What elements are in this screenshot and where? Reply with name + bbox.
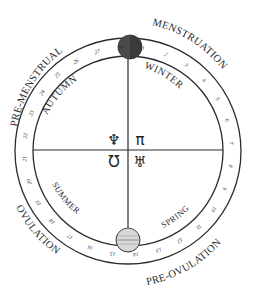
day-number-8: 8: [228, 164, 234, 168]
uranus-like-symbol-icon: ♅: [133, 153, 146, 171]
pi-like-symbol-icon: π: [135, 131, 144, 149]
day-number-18: 18: [48, 218, 56, 226]
day-number-27: 27: [94, 48, 101, 55]
omega-like-symbol-icon: Ʊ: [108, 153, 119, 171]
cycle-wheel-svg: 1234567891011121314151617181920212223242…: [0, 0, 264, 294]
season-label-winter: WINTER: [143, 59, 186, 90]
phase-label-ovulation: OVULATION: [14, 203, 62, 257]
day-number-15: 15: [109, 250, 116, 257]
day-number-5: 5: [215, 96, 222, 102]
day-number-6: 6: [224, 118, 231, 123]
day-number-4: 4: [201, 77, 207, 83]
day-number-16: 16: [86, 244, 94, 252]
day-number-22: 22: [22, 132, 29, 139]
day-number-21: 21: [21, 156, 27, 162]
cycle-wheel-diagram: 1234567891011121314151617181920212223242…: [0, 0, 264, 294]
day-number-20: 20: [25, 178, 32, 185]
day-number-25: 25: [53, 71, 61, 79]
day-number-2: 2: [163, 51, 168, 58]
phase-label-pre-ovulation: PRE-OVULATION: [145, 236, 223, 287]
day-number-23: 23: [27, 109, 35, 117]
day-number-11: 11: [195, 223, 203, 231]
day-number-13: 13: [155, 247, 162, 254]
day-number-14: 14: [133, 251, 139, 257]
season-label-autumn: AUTUMN: [39, 73, 79, 116]
day-number-9: 9: [222, 186, 229, 191]
day-number-24: 24: [38, 88, 46, 96]
day-number-7: 7: [229, 141, 235, 144]
day-number-19: 19: [34, 199, 42, 207]
season-label-summer: SUMMER: [50, 180, 82, 216]
neptune-like-symbol-icon: ♆: [107, 131, 120, 149]
day-number-10: 10: [210, 205, 218, 213]
day-number-3: 3: [183, 61, 190, 68]
day-number-28: 28: [117, 44, 123, 50]
day-number-1: 1: [141, 45, 145, 51]
day-number-12: 12: [176, 237, 184, 245]
day-number-17: 17: [65, 233, 73, 241]
day-number-26: 26: [72, 57, 80, 65]
full-moon-icon: [116, 228, 140, 252]
